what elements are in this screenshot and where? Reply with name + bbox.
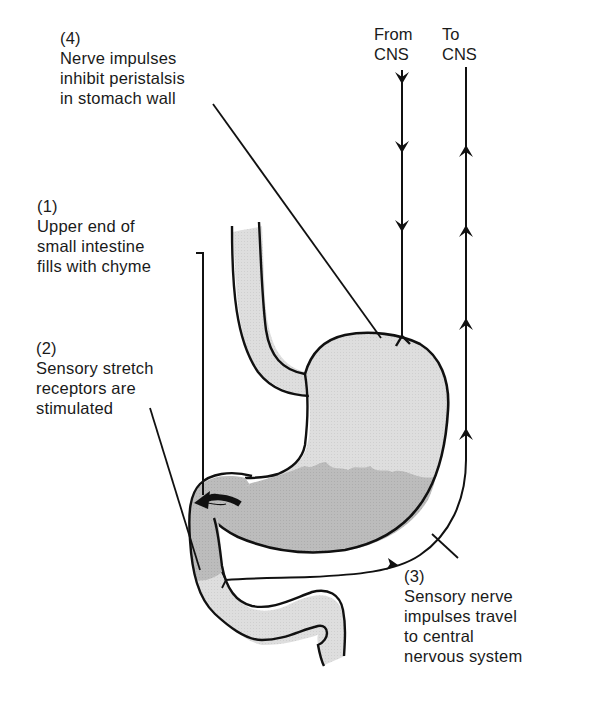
step2-line-3: stimulated <box>36 398 154 418</box>
step2-line-2: receptors are <box>36 378 154 398</box>
from-cns-nerve <box>395 70 410 346</box>
to-cns-line-2: CNS <box>442 44 477 64</box>
step1-line-3: fills with chyme <box>37 256 151 276</box>
step3-line-4: nervous system <box>404 646 522 666</box>
step1-leader-line <box>196 253 203 495</box>
step3-line-1: Sensory nerve <box>404 586 522 606</box>
step3-line-3: to central <box>404 626 522 646</box>
from-cns-label: From CNS <box>374 24 413 64</box>
step3-line-2: impulses travel <box>404 606 522 626</box>
step1-label: (1) Upper end of small intestine fills w… <box>37 196 151 276</box>
step2-line-1: Sensory stretch <box>36 358 154 378</box>
step4-line-1: Nerve impulses <box>60 48 185 68</box>
stomach <box>207 333 448 553</box>
step4-line-2: inhibit peristalsis <box>60 68 185 88</box>
step4-line-3: in stomach wall <box>60 88 185 108</box>
step4-number: (4) <box>60 28 185 48</box>
to-cns-line-1: To <box>442 24 477 44</box>
step3-label: (3) Sensory nerve impulses travel to cen… <box>404 566 522 666</box>
from-cns-line-1: From <box>374 24 413 44</box>
step1-line-2: small intestine <box>37 236 151 256</box>
step3-leader-line <box>432 534 458 558</box>
esophagus <box>232 222 310 396</box>
step4-label: (4) Nerve impulses inhibit peristalsis i… <box>60 28 185 108</box>
step2-label: (2) Sensory stretch receptors are stimul… <box>36 338 154 418</box>
step1-line-1: Upper end of <box>37 216 151 236</box>
step2-pointer <box>150 408 200 570</box>
step2-number: (2) <box>36 338 154 358</box>
step3-number: (3) <box>404 566 522 586</box>
to-cns-label: To CNS <box>442 24 477 64</box>
step1-number: (1) <box>37 196 151 216</box>
from-cns-line-2: CNS <box>374 44 413 64</box>
